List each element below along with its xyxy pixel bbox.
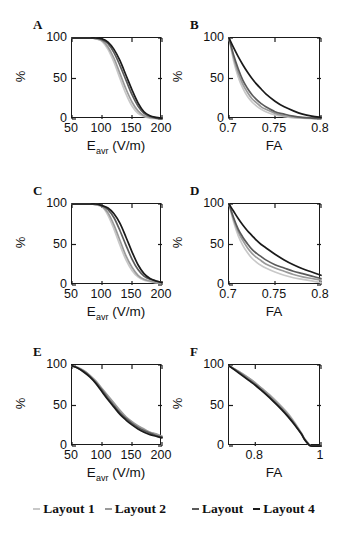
curves-a (72, 38, 162, 119)
plot-area-a (71, 37, 161, 118)
xtick-label: 200 (141, 288, 181, 301)
curve-layout-2 (72, 38, 162, 119)
curve-layout-2 (229, 204, 321, 280)
yaxis-title: % (14, 59, 27, 93)
xtick-label: 200 (141, 449, 181, 462)
xtick-label: 0.75 (254, 122, 294, 135)
curve-layout-4 (72, 366, 162, 438)
xtick-label: 0.7 (208, 122, 248, 135)
panel-letter-a: A (33, 18, 42, 31)
xaxis-title: Eavr (V/m) (71, 466, 161, 483)
ytick-label: 0 (188, 439, 224, 452)
curves-d (229, 204, 321, 285)
plot-area-e (71, 364, 161, 445)
ytick-label: 50 (188, 399, 224, 412)
curve-layout-1 (72, 366, 162, 436)
plot-area-f (228, 364, 320, 445)
yaxis-title: % (171, 59, 184, 93)
ytick-label: 100 (188, 358, 224, 371)
xtick-label: 0.8 (300, 288, 340, 301)
xaxis-title: Eavr (V/m) (71, 305, 161, 322)
panel-letter-b: B (190, 18, 199, 31)
yaxis-title: % (171, 386, 184, 420)
curve-layout-1 (72, 204, 162, 283)
curve-layout-4 (229, 38, 321, 117)
panel-letter-d: D (190, 184, 199, 197)
yaxis-title: % (171, 225, 184, 259)
curve-layout (72, 204, 162, 283)
xtick-label: 0.75 (254, 288, 294, 301)
xaxis-title: Eavr (V/m) (71, 139, 161, 156)
xtick-label: 0.8 (300, 122, 340, 135)
ytick-label: 50 (188, 238, 224, 251)
yaxis-title: % (14, 386, 27, 420)
plot-area-d (228, 203, 320, 284)
plot-area-b (228, 37, 320, 118)
curve-layout-2 (229, 366, 321, 446)
xtick-label: 0.8 (234, 449, 274, 462)
legend-color-swatch (105, 508, 112, 510)
xaxis-title: FA (228, 305, 320, 319)
figure-legend: Layout 1Layout 2LayoutLayout 4 (0, 496, 348, 522)
ytick-label: 50 (31, 399, 67, 412)
curve-layout-1 (72, 38, 162, 119)
legend-label: Layout (202, 502, 243, 516)
plot-area-c (71, 203, 161, 284)
curves-f (229, 365, 321, 446)
ytick-label: 50 (31, 238, 67, 251)
ytick-label: 100 (31, 31, 67, 44)
curves-b (229, 38, 321, 119)
panel-letter-c: C (33, 184, 42, 197)
curve-layout-4 (229, 366, 321, 446)
legend-label: Layout 1 (43, 502, 94, 516)
xtick-label: 1 (300, 449, 340, 462)
ytick-label: 100 (31, 358, 67, 371)
curves-c (72, 204, 162, 285)
ytick-label: 50 (188, 72, 224, 85)
legend-label: Layout 2 (115, 502, 166, 516)
legend-item-3: Layout (192, 502, 243, 516)
curve-layout-4 (72, 204, 162, 283)
legend-item-1: Layout 1 (33, 502, 94, 516)
curve-layout-2 (72, 204, 162, 283)
xtick-label: 0.7 (208, 288, 248, 301)
tick-marks (229, 365, 321, 446)
ytick-label: 100 (188, 31, 224, 44)
yaxis-title: % (14, 225, 27, 259)
tick-marks (72, 204, 162, 285)
curve-layout-4 (72, 38, 162, 118)
curve-layout (229, 38, 321, 118)
legend-color-swatch (253, 508, 260, 510)
ytick-label: 100 (188, 197, 224, 210)
panel-letter-e: E (33, 345, 42, 358)
curves-e (72, 365, 162, 446)
ytick-label: 50 (31, 72, 67, 85)
xaxis-title: FA (228, 139, 320, 153)
curve-layout-1 (229, 366, 321, 446)
panel-letter-f: F (190, 345, 198, 358)
xtick-label: 200 (141, 122, 181, 135)
legend-item-2: Layout 2 (105, 502, 166, 516)
tick-marks (72, 38, 162, 119)
legend-label: Layout 4 (263, 502, 314, 516)
ytick-label: 100 (31, 197, 67, 210)
figure-panel-grid: A05010050100150200%Eavr (V/m)B0501000.70… (0, 0, 348, 538)
curve-layout (229, 366, 321, 446)
xaxis-title: FA (228, 466, 320, 480)
curve-layout (72, 38, 162, 119)
curve-layout-2 (72, 366, 162, 436)
curve-layout (72, 366, 162, 437)
legend-color-swatch (33, 508, 40, 510)
legend-item-4: Layout 4 (253, 502, 314, 516)
legend-color-swatch (192, 508, 199, 510)
